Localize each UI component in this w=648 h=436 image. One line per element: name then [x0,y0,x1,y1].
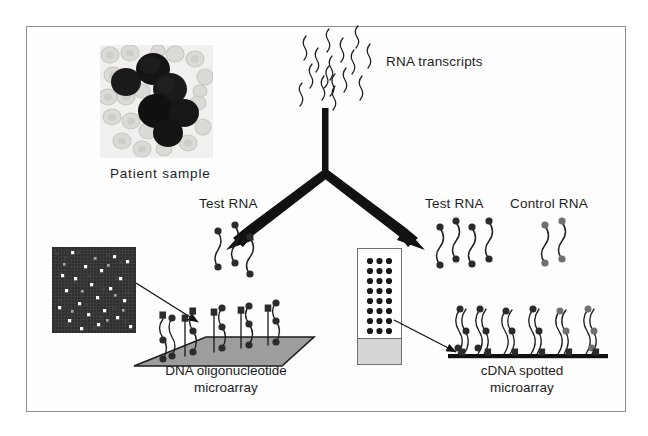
figure-root: RNA transcripts Patient sample Test RNA … [0,0,648,436]
cdna-probe-group [455,306,600,356]
rna-transcript-squiggles [299,26,371,110]
caption-oligo-microarray: DNA oligonucleotide microarray [104,362,348,397]
caption-oligo-line1: DNA oligonucleotide [165,363,287,378]
caption-cdna-line1: cDNA spotted [481,363,564,378]
label-control-rna: Control RNA [510,196,588,211]
caption-oligo-line2: microarray [104,379,348,396]
callout-arrow-cdna [394,320,456,352]
test-rna-strands-right [436,217,492,268]
cdna-array-platform [448,354,608,358]
control-rna-strands [541,217,565,266]
caption-cdna-line2: microarray [428,379,616,396]
label-test-rna-left: Test RNA [199,196,258,211]
label-patient-sample: Patient sample [110,166,211,181]
label-test-rna-right: Test RNA [425,196,484,211]
flow-stem [322,108,329,170]
caption-cdna-microarray: cDNA spotted microarray [428,362,616,397]
label-rna-transcripts: RNA transcripts [386,54,483,69]
flow-y-arrow [226,108,425,250]
callout-arrow-oligo [136,283,198,322]
